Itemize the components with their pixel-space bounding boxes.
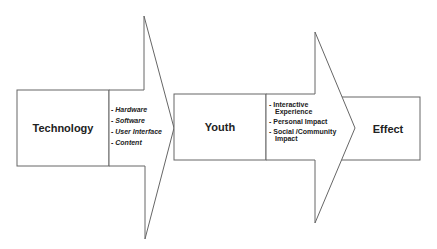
- youth-label: Youth: [174, 94, 266, 160]
- list-item-line: - Interactive: [269, 101, 336, 108]
- list-item: - Hardware: [111, 106, 162, 113]
- list-item: - Interactive Experience: [269, 101, 336, 115]
- technology-factors-list: - Hardware - Software - User Interface -…: [111, 106, 162, 150]
- list-item-continuation: Experience: [269, 108, 336, 115]
- list-item: - Social /Community Impact: [269, 128, 336, 142]
- list-item-line: - Social /Community: [269, 128, 336, 135]
- list-item: - Content: [111, 139, 162, 146]
- technology-label: Technology: [17, 90, 109, 166]
- list-item-continuation: Impact: [269, 135, 336, 142]
- list-item: - User Interface: [111, 128, 162, 135]
- list-item-line: - Personal Impact: [269, 118, 336, 125]
- effect-factors-list: - Interactive Experience - Personal Impa…: [269, 101, 336, 145]
- list-item: - Software: [111, 117, 162, 124]
- effect-label: Effect: [356, 97, 420, 160]
- list-item: - Personal Impact: [269, 118, 336, 125]
